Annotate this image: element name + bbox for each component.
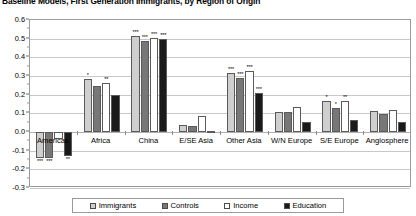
bar-income-anglosphere [389, 110, 397, 132]
legend-label: Immigrants [99, 201, 137, 210]
gridline [30, 188, 410, 189]
bar-education-anglosphere [398, 122, 406, 132]
significance-marker: ** [62, 157, 74, 162]
legend-label: Income [233, 201, 258, 210]
x-tick-mark [316, 131, 317, 135]
x-tick-mark [77, 131, 78, 135]
x-category-label-africa: Africa [91, 136, 110, 145]
bar-group: ******** [30, 20, 78, 186]
bar-income-china [150, 38, 158, 132]
y-tick-label: -0.3 [12, 183, 25, 192]
y-tick-label: -0.2 [12, 164, 25, 173]
x-tick-mark [125, 131, 126, 135]
bar-group: ************ [221, 20, 269, 186]
legend-item-controls[interactable]: Controls [162, 201, 199, 210]
y-tick-label: 0.6 [15, 15, 25, 24]
y-tick-label: 0.2 [15, 89, 25, 98]
chart-figure: Baseline Models, First Generation Immigr… [0, 0, 416, 216]
bar-group: *** [78, 20, 126, 186]
significance-marker: *** [157, 33, 169, 38]
chart-legend: ImmigrantsControlsIncomeEducation [72, 198, 344, 213]
bar-group: **** [317, 20, 365, 186]
bar-group [269, 20, 317, 186]
bar-immigrants-other-asia [227, 73, 235, 132]
bar-income-w-n-europe [293, 107, 301, 132]
plot-area: *************************************** [29, 19, 411, 187]
significance-marker: * [320, 95, 332, 100]
bar-controls-africa [93, 86, 101, 132]
significance-marker: ** [339, 95, 351, 100]
chart-title: Baseline Models, First Generation Immigr… [2, 0, 414, 6]
bar-controls-s-e-europe [332, 108, 340, 132]
legend-label: Education [293, 201, 327, 210]
x-category-label-e-se-asia: E/SE Asia [179, 136, 213, 145]
x-category-label-anglosphere: Anglosphere [366, 136, 409, 145]
significance-marker: *** [243, 65, 255, 70]
legend-swatch-icon [90, 203, 96, 209]
bar-immigrants-china [131, 36, 139, 132]
significance-marker: * [82, 73, 94, 78]
bar-controls-w-n-europe [284, 112, 292, 132]
x-category-label-w-n-europe: W/N Europe [271, 136, 312, 145]
y-tick-label: 0.4 [15, 52, 25, 61]
significance-marker: ** [100, 77, 112, 82]
legend-item-education[interactable]: Education [284, 201, 327, 210]
x-tick-mark [220, 131, 221, 135]
x-category-label-s-e-europe: S/E Europe [320, 136, 359, 145]
y-tick-label: -0.1 [12, 145, 25, 154]
y-tick-label: 0.1 [15, 108, 25, 117]
legend-swatch-icon [162, 203, 168, 209]
y-tick-label: 0.0 [15, 127, 25, 136]
legend-swatch-icon [284, 203, 290, 209]
bar-education-africa [111, 95, 119, 132]
legend-swatch-icon [224, 203, 230, 209]
x-category-label-other-asia: Other Asia [226, 136, 261, 145]
bar-group [173, 20, 221, 186]
bar-immigrants-w-n-europe [275, 112, 283, 132]
bar-group [364, 20, 412, 186]
bar-group: ************ [126, 20, 174, 186]
bar-immigrants-africa [84, 79, 92, 132]
legend-item-immigrants[interactable]: Immigrants [90, 201, 137, 210]
bar-education-w-n-europe [302, 122, 310, 132]
legend-label: Controls [171, 201, 199, 210]
bar-controls-china [141, 41, 149, 132]
significance-marker: *** [253, 87, 265, 92]
bar-controls-other-asia [236, 78, 244, 132]
x-category-label-china: China [138, 136, 158, 145]
bar-income-other-asia [245, 71, 253, 132]
bar-controls-anglosphere [379, 114, 387, 132]
x-tick-mark [268, 131, 269, 135]
y-tick-label: 0.3 [15, 71, 25, 80]
bar-income-s-e-europe [341, 101, 349, 132]
bar-immigrants-anglosphere [370, 111, 378, 132]
bar-immigrants-e-se-asia [179, 125, 187, 132]
bar-education-other-asia [255, 93, 263, 132]
bar-education-china [159, 39, 167, 132]
x-category-label-americas: Americas [37, 136, 69, 145]
bar-income-e-se-asia [198, 116, 206, 132]
bar-education-e-se-asia [207, 131, 215, 133]
bar-income-africa [102, 83, 110, 132]
x-tick-mark [363, 131, 364, 135]
y-axis: 0.60.50.40.30.20.10.0-0.1-0.2-0.3 [0, 19, 29, 187]
bar-controls-e-se-asia [188, 126, 196, 132]
legend-item-income[interactable]: Income [224, 201, 258, 210]
bar-education-s-e-europe [350, 120, 358, 132]
x-tick-mark [172, 131, 173, 135]
y-tick-label: 0.5 [15, 33, 25, 42]
significance-marker: *** [43, 159, 55, 164]
